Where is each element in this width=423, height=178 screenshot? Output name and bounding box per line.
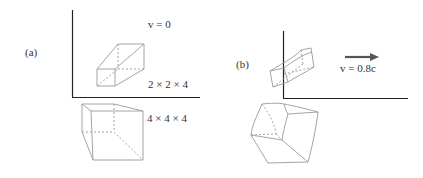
panel-b-label: (b) bbox=[236, 58, 249, 70]
panel-a-label: (a) bbox=[25, 46, 37, 58]
box-4x4x4 bbox=[82, 104, 143, 160]
box-2x2x4 bbox=[97, 44, 144, 86]
velocity-label-a: v = 0 bbox=[148, 18, 171, 30]
velocity-label-b: v = 0.8c bbox=[340, 62, 376, 74]
box-small-dimensions: 2 × 2 × 4 bbox=[148, 78, 188, 90]
relativity-diagram bbox=[0, 0, 423, 178]
box-4x4x4-moving bbox=[251, 103, 318, 163]
box-2x2x4-moving bbox=[270, 48, 314, 90]
box-large-dimensions: 4 × 4 × 4 bbox=[147, 112, 187, 124]
velocity-arrow-icon bbox=[345, 53, 379, 61]
